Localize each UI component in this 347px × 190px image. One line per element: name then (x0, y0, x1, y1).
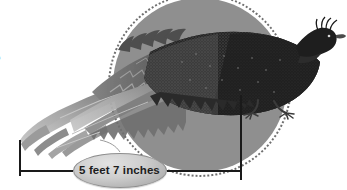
bird-head (296, 17, 346, 63)
figure-canvas: 5 (0, 0, 347, 190)
measure-baseline-right (167, 170, 243, 172)
measurement-label-text: 5 feet 7 inches (79, 164, 160, 176)
peacock-pheasant-illustration (0, 0, 347, 190)
measurement-label: 5 feet 7 inches (73, 153, 167, 188)
measure-tick-right (240, 95, 242, 180)
measure-baseline-left (19, 170, 73, 172)
crest (316, 17, 337, 30)
